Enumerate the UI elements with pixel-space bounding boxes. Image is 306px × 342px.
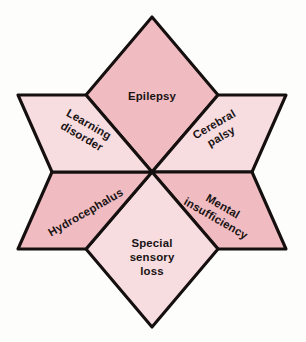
star-shape-svg bbox=[0, 0, 306, 342]
star-diagram: Epilepsy Cerebral palsy Mental insuffici… bbox=[0, 0, 306, 342]
